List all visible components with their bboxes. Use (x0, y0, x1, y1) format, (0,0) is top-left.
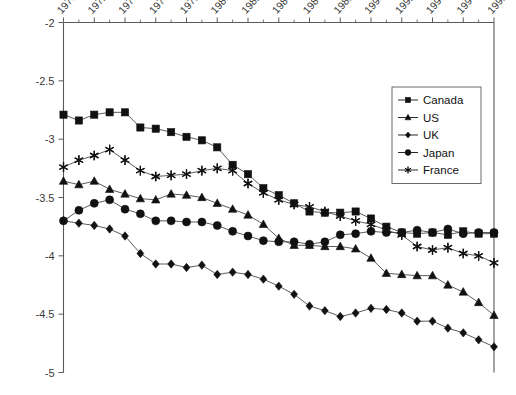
x-axis-tick-label: 1980 (208, 0, 233, 16)
marker-asterisk (136, 166, 144, 176)
marker-circle (444, 225, 452, 233)
legend-label: US (423, 112, 439, 124)
marker-diamond (383, 305, 390, 313)
marker-triangle (244, 211, 252, 219)
marker-square (137, 124, 144, 131)
marker-circle (336, 231, 344, 239)
marker-triangle (336, 242, 344, 250)
marker-square (198, 137, 205, 144)
marker-diamond (429, 317, 436, 325)
marker-diamond (444, 324, 451, 332)
marker-asterisk (244, 179, 252, 189)
marker-diamond (321, 306, 328, 314)
marker-asterisk (59, 162, 67, 172)
x-axis-tick-label: 1988 (331, 0, 356, 16)
marker-circle (213, 222, 221, 230)
marker-square (152, 125, 159, 132)
marker-circle (321, 238, 329, 246)
x-axis-tick-label: 1996 (454, 0, 479, 16)
marker-circle (275, 238, 283, 246)
x-axis-tick-label: 1992 (392, 0, 417, 16)
x-axis-tick-label: 1998 (485, 0, 510, 16)
marker-circle (429, 229, 437, 237)
marker-circle (229, 227, 237, 235)
marker-circle (198, 218, 206, 226)
marker-diamond (91, 221, 98, 229)
y-axis-tick-label: -5 (45, 367, 55, 379)
marker-diamond (75, 219, 82, 227)
marker-square (352, 208, 359, 215)
legend-label: UK (423, 129, 439, 141)
marker-diamond (491, 343, 498, 351)
marker-square (106, 109, 113, 116)
x-axis-tick-label: 1978 (177, 0, 202, 16)
marker-asterisk (105, 145, 113, 155)
line-chart: -2-2.5-3-3.5-4-4.5-5 1970197219741976197… (0, 0, 516, 395)
marker-square (121, 109, 128, 116)
marker-diamond (183, 263, 190, 271)
marker-diamond (398, 309, 405, 317)
y-axis-tick-label: -4.5 (36, 308, 55, 320)
marker-triangle (490, 311, 498, 319)
marker-diamond (337, 312, 344, 320)
marker-circle (413, 226, 421, 234)
marker-square (405, 97, 410, 102)
y-axis-tick-label: -2 (45, 17, 55, 29)
marker-triangle (459, 288, 467, 296)
marker-circle (136, 210, 144, 218)
marker-asterisk (75, 155, 83, 165)
marker-square (244, 171, 251, 178)
marker-circle (459, 230, 467, 238)
legend-label: France (423, 164, 459, 176)
marker-asterisk (413, 242, 421, 252)
marker-square (91, 111, 98, 118)
marker-square (60, 111, 67, 118)
marker-triangle (474, 298, 482, 306)
marker-circle (352, 230, 360, 238)
marker-circle (121, 205, 129, 213)
marker-triangle (259, 220, 267, 228)
marker-triangle (228, 205, 236, 213)
y-axis-tick-label: -4 (45, 250, 55, 262)
x-axis-tick-label: 1976 (146, 0, 171, 16)
marker-asterisk (490, 258, 498, 268)
x-axis-tick-label: 1990 (362, 0, 387, 16)
marker-triangle (367, 254, 375, 262)
marker-diamond (460, 329, 467, 337)
marker-circle (90, 199, 98, 207)
marker-triangle (105, 185, 113, 193)
legend-label: Canada (423, 94, 464, 106)
marker-diamond (260, 275, 267, 283)
x-axis-tick-labels: 1970197219741976197819801982198419861988… (54, 0, 509, 16)
marker-circle (183, 218, 191, 226)
y-axis-tick-label: -3.5 (36, 192, 55, 204)
marker-circle (244, 232, 252, 240)
marker-diamond (106, 225, 113, 233)
marker-diamond (275, 282, 282, 290)
marker-asterisk (90, 151, 98, 161)
x-axis-tick-label: 1984 (269, 0, 294, 16)
marker-circle (475, 229, 483, 237)
marker-triangle (444, 281, 452, 289)
y-axis-tick-label: -2.5 (36, 75, 55, 87)
marker-circle (152, 217, 160, 225)
marker-triangle (428, 271, 436, 279)
marker-square (214, 144, 221, 151)
marker-diamond (245, 270, 252, 278)
marker-triangle (213, 199, 221, 207)
marker-triangle (167, 190, 175, 198)
y-axis-tick-label: -3 (45, 133, 55, 145)
legend-label: Japan (423, 147, 454, 159)
marker-circle (259, 237, 267, 245)
x-axis-tick-label: 1994 (423, 0, 448, 16)
marker-diamond (414, 317, 421, 325)
x-axis-tick-label: 1970 (54, 0, 79, 16)
marker-triangle (90, 177, 98, 185)
marker-diamond (368, 304, 375, 312)
marker-triangle (59, 177, 67, 185)
marker-diamond (291, 290, 298, 298)
y-axis-tick-labels: -2-2.5-3-3.5-4-4.5-5 (36, 17, 55, 379)
marker-circle (106, 196, 114, 204)
x-axis-tick-label: 1974 (116, 0, 141, 16)
marker-diamond (475, 336, 482, 344)
